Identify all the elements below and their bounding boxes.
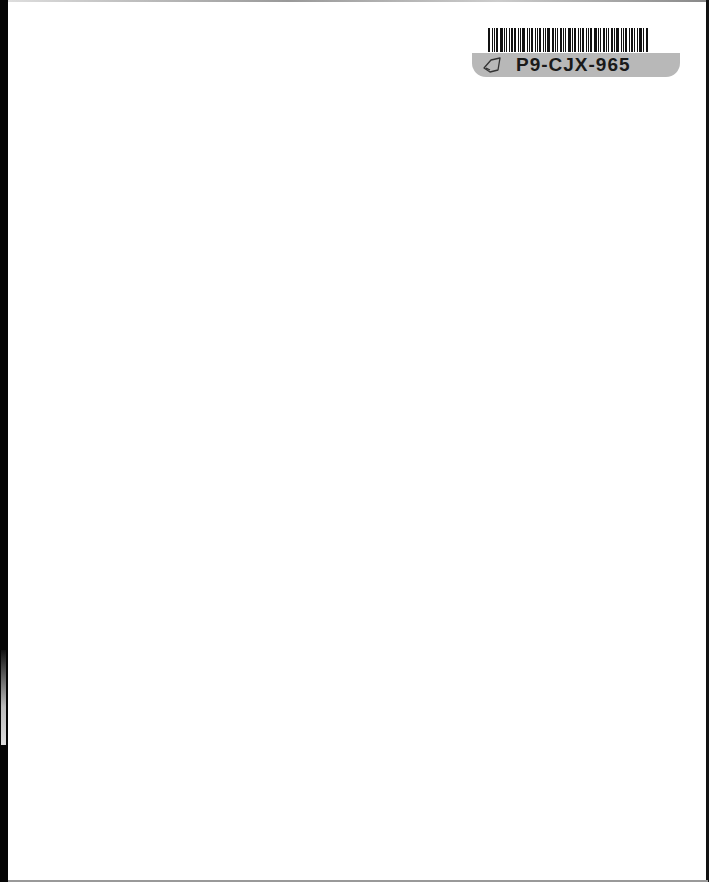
barcode-bars <box>488 28 660 52</box>
label-strip: P9-CJX-965 <box>472 53 680 77</box>
page-left-edge <box>0 0 8 882</box>
page-left-edge-shadow <box>1 650 6 745</box>
page-top-edge <box>8 0 708 2</box>
barcode-code: P9-CJX-965 <box>516 54 631 76</box>
tag-icon <box>482 56 504 74</box>
barcode-label: P9-CJX-965 <box>472 28 709 78</box>
